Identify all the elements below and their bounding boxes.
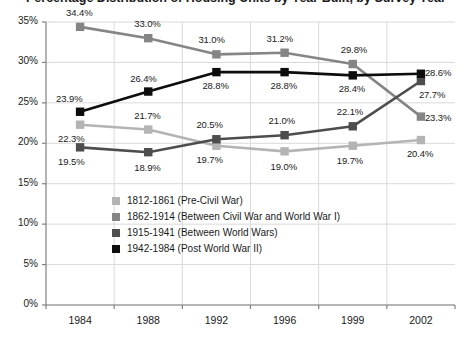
data-point-label: 29.8% — [341, 44, 367, 55]
series-marker — [144, 148, 152, 156]
data-point-label: 22.3% — [58, 133, 84, 144]
series-marker — [349, 71, 357, 79]
chart-legend: 1812-1861 (Pre-Civil War)1862-1914 (Betw… — [112, 193, 340, 257]
series-marker — [280, 68, 288, 76]
legend-swatch-icon — [112, 245, 120, 253]
y-axis-tick-label: 10% — [0, 217, 38, 228]
x-axis-tick-label: 2002 — [391, 314, 451, 326]
y-axis-tick-label: 25% — [0, 96, 38, 107]
series-marker — [212, 50, 220, 58]
series-marker — [349, 142, 357, 150]
data-point-label: 19.0% — [271, 161, 297, 172]
data-point-label: 31.2% — [267, 33, 293, 44]
series-marker — [144, 34, 152, 42]
series-marker — [280, 131, 288, 139]
x-axis-tick-label: 1999 — [323, 314, 383, 326]
y-axis-tick-label: 15% — [0, 177, 38, 188]
series-marker — [144, 125, 152, 133]
data-point-label: 28.8% — [202, 80, 228, 91]
legend-item[interactable]: 1915-1941 (Between World Wars) — [112, 225, 340, 240]
y-axis-tick-label: 30% — [0, 55, 38, 66]
legend-swatch-icon — [112, 197, 120, 205]
data-point-label: 22.1% — [337, 106, 363, 117]
x-axis-tick-label: 1988 — [118, 314, 178, 326]
legend-item[interactable]: 1942-1984 (Post World War II) — [112, 241, 340, 256]
data-point-label: 26.4% — [130, 73, 156, 84]
x-axis-tick-label: 1996 — [255, 314, 315, 326]
series-marker — [280, 147, 288, 155]
series-marker — [349, 60, 357, 68]
data-point-label: 20.5% — [196, 119, 222, 130]
data-point-label: 31.0% — [198, 34, 224, 45]
data-point-label: 21.0% — [269, 115, 295, 126]
legend-label: 1862-1914 (Between Civil War and World W… — [127, 211, 340, 222]
series-marker — [417, 70, 425, 78]
legend-item[interactable]: 1862-1914 (Between Civil War and World W… — [112, 209, 340, 224]
data-point-label: 23.3% — [425, 112, 451, 123]
series-marker — [76, 23, 84, 31]
series-marker — [417, 77, 425, 85]
legend-label: 1942-1984 (Post World War II) — [127, 243, 262, 254]
series-marker — [212, 135, 220, 143]
data-point-label: 19.7% — [337, 155, 363, 166]
series-marker — [76, 108, 84, 116]
data-point-label: 28.6% — [425, 67, 451, 78]
data-point-label: 33.0% — [134, 18, 160, 29]
series-marker — [144, 87, 152, 95]
x-axis-tick-label: 1992 — [186, 314, 246, 326]
chart-canvas — [0, 0, 469, 346]
data-point-label: 19.5% — [58, 156, 84, 167]
data-point-label: 19.7% — [196, 154, 222, 165]
data-point-label: 34.4% — [66, 7, 92, 18]
legend-swatch-icon — [112, 213, 120, 221]
series-marker — [417, 136, 425, 144]
data-point-label: 28.4% — [339, 83, 365, 94]
data-point-label: 27.7% — [419, 89, 445, 100]
x-axis-tick-label: 1984 — [50, 314, 110, 326]
series-marker — [76, 120, 84, 128]
series-marker — [349, 122, 357, 130]
legend-label: 1915-1941 (Between World Wars) — [127, 227, 278, 238]
y-axis-tick-label: 20% — [0, 136, 38, 147]
data-point-label: 20.4% — [407, 148, 433, 159]
series-marker — [76, 143, 84, 151]
y-axis-tick-label: 5% — [0, 258, 38, 269]
series-marker — [280, 49, 288, 57]
data-point-label: 28.8% — [271, 80, 297, 91]
legend-swatch-icon — [112, 229, 120, 237]
data-point-label: 18.9% — [134, 162, 160, 173]
y-axis-tick-label: 35% — [0, 15, 38, 26]
data-point-label: 23.9% — [56, 93, 82, 104]
series-marker — [212, 68, 220, 76]
series-marker — [417, 112, 425, 120]
y-axis-tick-label: 0% — [0, 298, 38, 309]
data-point-label: 21.7% — [134, 110, 160, 121]
line-chart: Percentage Distribution of Housing Units… — [0, 0, 469, 346]
legend-label: 1812-1861 (Pre-Civil War) — [127, 195, 243, 206]
legend-item[interactable]: 1812-1861 (Pre-Civil War) — [112, 193, 340, 208]
